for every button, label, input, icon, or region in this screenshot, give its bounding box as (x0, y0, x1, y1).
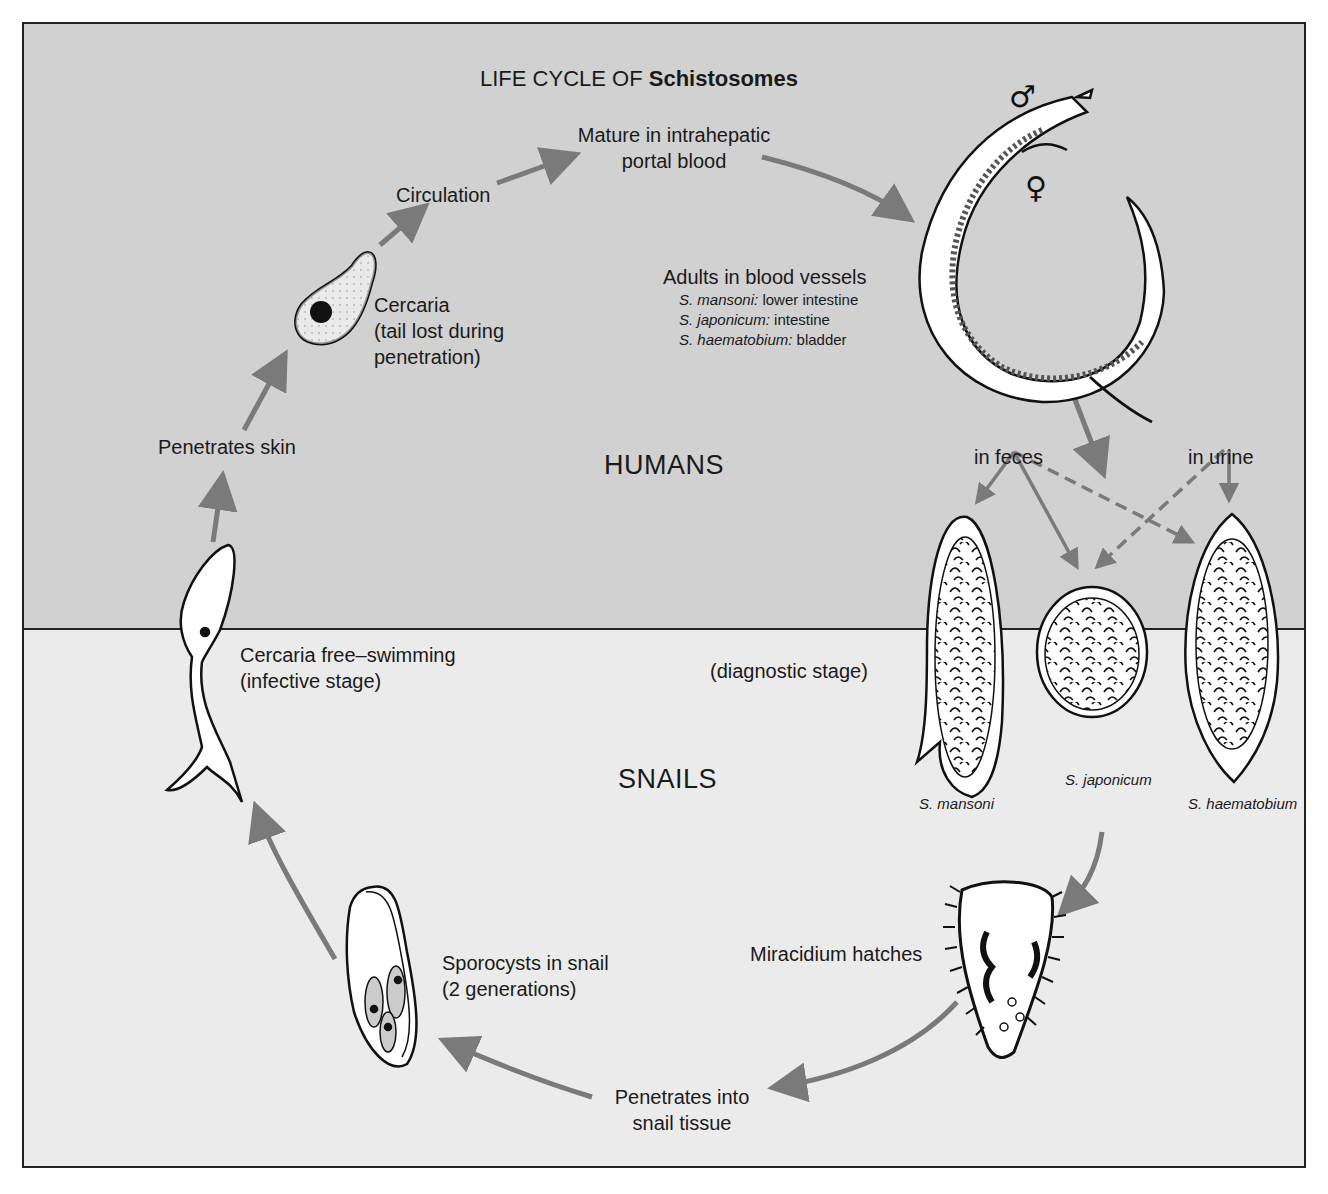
stage-cercaria-line2: (tail lost during (374, 318, 504, 344)
adults-heading: Adults in blood vessels (663, 264, 866, 290)
stage-penetrates-snail: Penetrates into snail tissue (592, 1084, 772, 1136)
stage-diagnostic: (diagnostic stage) (710, 658, 868, 684)
diagram-title: LIFE CYCLE OF Schistosomes (480, 66, 798, 92)
species-name: S. japonicum: (679, 311, 770, 328)
penetrates-snail-line2: snail tissue (592, 1110, 772, 1136)
adult-worms-illustration (920, 90, 1164, 422)
egg-label-haematobium: S. haematobium (1188, 794, 1297, 814)
stage-cercaria: Cercaria (tail lost during penetration) (374, 292, 504, 370)
arrow-cercaria-to-circulation (380, 209, 422, 245)
stage-circulation: Circulation (396, 182, 490, 208)
stage-cercaria-line3: penetration) (374, 344, 504, 370)
egg-s-japonicum-illustration (1037, 587, 1147, 717)
cercaria-free-line1: Cercaria free–swimming (240, 642, 456, 668)
arrow-penetrate-to-sporocyst (447, 1042, 592, 1097)
stage-adults: Adults in blood vessels S. mansoni: lowe… (663, 264, 866, 350)
female-symbol-icon: ♀ (1025, 170, 1047, 205)
title-organism: Schistosomes (649, 66, 798, 91)
egg-label-japonicum: S. japonicum (1065, 770, 1152, 790)
stage-mature-line1: Mature in intrahepatic (559, 122, 789, 148)
life-cycle-artwork: ♂ ♀ (24, 24, 1306, 1168)
penetrates-snail-line1: Penetrates into (592, 1084, 772, 1110)
route-in-feces: in feces (974, 444, 1043, 470)
stage-miracidium: Miracidium hatches (750, 941, 922, 967)
miracidium-illustration (943, 882, 1066, 1058)
sporocyst-illustration (347, 886, 417, 1066)
egg-s-mansoni-illustration (917, 517, 1003, 797)
arrow-egg-to-miracidium (1064, 832, 1102, 910)
stage-cercaria-line1: Cercaria (374, 292, 504, 318)
arrow-sporocyst-to-cercaria (257, 810, 335, 959)
adults-site-japonicum: S. japonicum: intestine (663, 310, 866, 330)
arrow-skin-to-cercaria (244, 358, 283, 430)
stage-cercaria-free-swimming: Cercaria free–swimming (infective stage) (240, 642, 456, 694)
male-symbol-icon: ♂ (1009, 79, 1036, 114)
site-name: lower intestine (758, 291, 858, 308)
title-prefix: LIFE CYCLE OF (480, 66, 649, 91)
stage-mature-line2: portal blood (559, 148, 789, 174)
diagram-frame: ♂ ♀ (22, 22, 1306, 1168)
species-name: S. haematobium: (679, 331, 792, 348)
cercaria-body-illustration (296, 253, 376, 344)
stage-mature: Mature in intrahepatic portal blood (559, 122, 789, 174)
site-name: bladder (792, 331, 846, 348)
cercaria-free-line2: (infective stage) (240, 668, 456, 694)
route-in-urine: in urine (1188, 444, 1254, 470)
stage-sporocysts: Sporocysts in snail (2 generations) (442, 950, 609, 1002)
site-name: intestine (770, 311, 830, 328)
egg-s-haematobium-illustration (1185, 514, 1278, 782)
zone-label-snails: SNAILS (618, 766, 717, 792)
free-swimming-cercaria-illustration (167, 545, 242, 802)
species-name: S. mansoni: (679, 291, 758, 308)
zone-label-humans: HUMANS (604, 452, 724, 478)
arrow-free-to-skin (213, 480, 222, 542)
sporocysts-line2: (2 generations) (442, 976, 609, 1002)
adults-site-haematobium: S. haematobium: bladder (663, 330, 866, 350)
egg-label-mansoni: S. mansoni (919, 794, 994, 814)
stage-penetrates-skin: Penetrates skin (158, 434, 296, 460)
sporocysts-line1: Sporocysts in snail (442, 950, 609, 976)
arrow-adults-to-japonicum (1074, 397, 1102, 470)
adults-site-mansoni: S. mansoni: lower intestine (663, 290, 866, 310)
arrow-miracidium-to-penetrate (777, 1002, 957, 1087)
